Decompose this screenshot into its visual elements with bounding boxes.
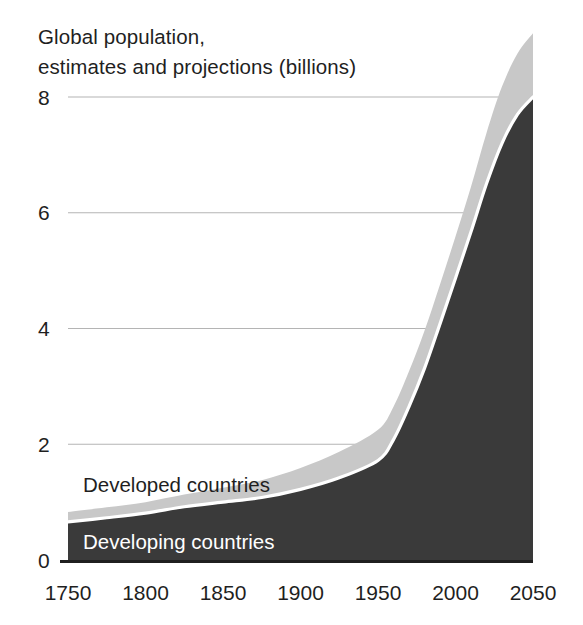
x-tick-label-1800: 1800 [122, 581, 169, 604]
x-tick-label-1900: 1900 [277, 581, 324, 604]
y-tick-label-4: 4 [38, 317, 50, 340]
x-tick-label-1850: 1850 [200, 581, 247, 604]
x-tick-label-2050: 2050 [510, 581, 557, 604]
x-tick-label-1950: 1950 [355, 581, 402, 604]
y-tick-label-6: 6 [38, 201, 50, 224]
x-tick-label-1750: 1750 [45, 581, 92, 604]
y-tick-label-0: 0 [38, 549, 50, 572]
chart-canvas: 02468 1750180018501900195020002050 Devel… [0, 0, 583, 625]
series-label-developed: Developed countries [83, 473, 270, 496]
y-tick-label-8: 8 [38, 86, 50, 109]
y-axis-tick-labels: 02468 [38, 86, 50, 572]
x-axis-tick-labels: 1750180018501900195020002050 [45, 581, 557, 604]
x-tick-label-2000: 2000 [432, 581, 479, 604]
series-label-developing: Developing countries [83, 530, 274, 553]
y-tick-label-2: 2 [38, 433, 50, 456]
population-area-chart: Global population, estimates and project… [0, 0, 583, 625]
